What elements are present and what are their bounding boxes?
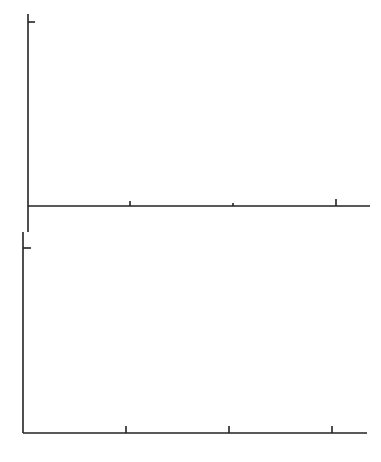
top-panel (28, 14, 370, 232)
bottom-panel (23, 232, 367, 433)
chart-canvas (0, 0, 381, 462)
